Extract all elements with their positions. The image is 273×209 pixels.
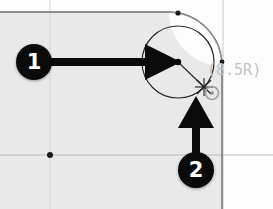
point-snap-icon xyxy=(206,87,219,100)
origin-point-dot xyxy=(47,152,53,158)
callout-badge-2[interactable]: 2 xyxy=(178,152,214,188)
cad-screenshot-canvas: 1 2 (8.5R) xyxy=(0,0,273,209)
drawing-vector-layer xyxy=(0,0,273,209)
callout-arrow-1 xyxy=(46,44,181,80)
callout-badge-1[interactable]: 1 xyxy=(16,44,52,80)
fillet-radius-label: (8.5R) xyxy=(207,61,261,79)
arc-top-endpoint-dot xyxy=(175,10,180,15)
